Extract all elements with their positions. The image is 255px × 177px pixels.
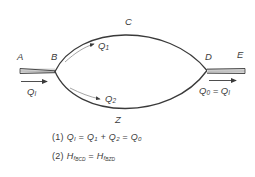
eq1-q-1-sub: 1 (94, 135, 97, 142)
figure-canvas: A B C D E Z QI Q1 Q2 Q0 = QI (1) QI = Q1… (0, 0, 255, 177)
lower-branch-flow-subscript: 2 (112, 97, 116, 104)
eq1-operator-equals-2: = (122, 132, 128, 142)
branch-upper-BCD (55, 35, 207, 72)
outlet-equals-operator: = (213, 85, 219, 96)
eq1-q-0-sub: 0 (138, 135, 141, 142)
inlet-flow-subscript: I (34, 90, 36, 97)
eq1-q-in: Q (67, 132, 74, 142)
eq2-h-right: H (97, 151, 104, 161)
inlet-pipe-AB (20, 69, 55, 74)
eq2-f-left: fBCD (74, 154, 86, 161)
eq2-path-right: BZD (105, 157, 115, 162)
node-label-e: E (237, 50, 243, 60)
node-label-a: A (17, 52, 23, 62)
outlet-flow-subscript: 0 (206, 89, 210, 96)
eq1-q-in-sub: I (74, 135, 76, 142)
eq2-h-left: H (67, 151, 74, 161)
eq2-operator-equals: = (88, 151, 94, 161)
outlet-flow-label: Q0 = QI (199, 86, 230, 97)
node-label-z: Z (115, 115, 121, 125)
equation-row-2: (2) HfBCD = HfBZD (52, 152, 232, 171)
node-label-d: D (205, 52, 212, 62)
lower-branch-direction-arrow (70, 88, 100, 99)
equation-2: (2) HfBCD = HfBZD (52, 152, 115, 163)
equation-1: (1) QI = Q1 + Q2 = Q0 (52, 133, 141, 142)
eq1-q-2-sub: 2 (116, 135, 119, 142)
equation-list: (1) QI = Q1 + Q2 = Q0 (2) HfBCD = HfBZD (52, 133, 232, 171)
branch-lower-BZD (55, 71, 207, 109)
upper-branch-flow-subscript: 1 (105, 44, 109, 51)
upper-branch-flow-label: Q1 (98, 41, 109, 52)
outlet-pipe-DE (207, 69, 245, 74)
outlet-equals-subscript: I (228, 89, 230, 96)
lower-branch-flow-label: Q2 (105, 94, 116, 105)
equation-1-number: (1) (52, 132, 64, 142)
equation-2-number: (2) (52, 151, 64, 161)
eq1-operator-plus: + (100, 132, 106, 142)
eq2-f-right: fBZD (104, 154, 115, 161)
inlet-flow-label: QI (27, 87, 36, 98)
eq1-operator-equals-1: = (79, 132, 85, 142)
equation-row-1: (1) QI = Q1 + Q2 = Q0 (52, 133, 232, 152)
eq2-path-left: BCD (75, 157, 85, 162)
node-label-c: C (125, 17, 132, 27)
node-label-b: B (51, 52, 57, 62)
eq1-q-0: Q (131, 132, 138, 142)
